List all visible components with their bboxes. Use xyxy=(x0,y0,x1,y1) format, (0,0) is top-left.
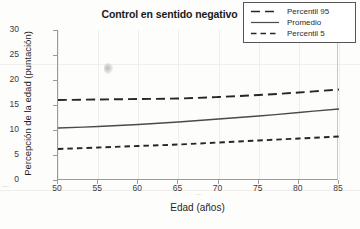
x-axis-tick-label: 70 xyxy=(203,183,233,193)
legend-item-percentil-5: Percentil 5 xyxy=(244,28,355,39)
x-axis-label: Edad (años) xyxy=(57,202,338,213)
x-axis-tick-label: 75 xyxy=(243,183,273,193)
y-axis-tick-label: 5 xyxy=(0,149,19,159)
series-line-promedio xyxy=(58,109,339,128)
legend-item-percentil-95: Percentil 95 xyxy=(244,6,355,17)
x-axis-tick-mark xyxy=(218,180,219,184)
legend-item-promedio: Promedio xyxy=(244,17,355,28)
scan-artifact-mark xyxy=(2,186,9,187)
legend-label: Promedio xyxy=(287,18,321,27)
x-axis-tick-label: 80 xyxy=(283,183,313,193)
x-axis-tick-label: 65 xyxy=(162,183,192,193)
x-axis-tick-mark xyxy=(177,180,178,184)
x-axis-tick-mark xyxy=(338,180,339,184)
x-axis-tick-mark xyxy=(57,180,58,184)
y-axis-label: Percepción de la edad (puntación) xyxy=(22,19,33,189)
y-axis-tick-label: 0 xyxy=(0,174,19,184)
y-axis-tick-label: 25 xyxy=(0,49,19,59)
chart-legend: Percentil 95 Promedio Percentil 5 xyxy=(243,2,356,43)
y-axis-tick-label: 30 xyxy=(0,24,19,34)
series-line-percentil-95 xyxy=(58,90,339,101)
legend-swatch-dashed-short xyxy=(250,29,280,38)
gridline-vertical xyxy=(339,30,340,179)
scan-artifact-mark xyxy=(196,194,201,195)
plot-area xyxy=(57,30,338,180)
legend-swatch-solid xyxy=(250,18,280,27)
x-axis-tick-mark xyxy=(97,180,98,184)
x-axis-tick-label: 85 xyxy=(323,183,353,193)
legend-swatch-dashed-long xyxy=(250,7,280,16)
chart-figure: Control en sentido negativo Percepción d… xyxy=(0,0,360,229)
legend-label: Percentil 5 xyxy=(287,29,325,38)
series-line-percentil-5 xyxy=(58,137,339,150)
x-axis-tick-mark xyxy=(137,180,138,184)
y-axis-tick-label: 20 xyxy=(0,74,19,84)
y-axis-tick-label: 15 xyxy=(0,99,19,109)
x-axis-tick-mark xyxy=(298,180,299,184)
x-axis-tick-mark xyxy=(258,180,259,184)
series-group xyxy=(58,30,339,180)
x-axis-tick-label: 60 xyxy=(122,183,152,193)
y-axis-tick-label: 10 xyxy=(0,124,19,134)
x-axis-tick-label: 50 xyxy=(42,183,72,193)
legend-label: Percentil 95 xyxy=(287,7,329,16)
x-axis-tick-label: 55 xyxy=(82,183,112,193)
